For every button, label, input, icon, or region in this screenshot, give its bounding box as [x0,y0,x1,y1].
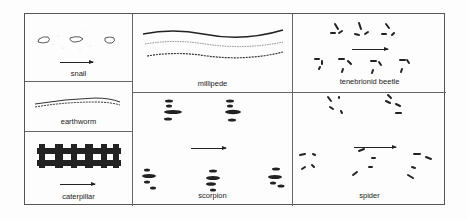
panel-label: snail [25,69,132,78]
panel-snail: snail [25,14,133,82]
scorpion-tracks-icon [133,93,293,206]
arrow-right-icon [191,148,226,149]
panel-label: scorpion [133,191,292,200]
animal-tracks-figure: snail earthworm caterpillar millipe [24,13,445,205]
panel-earthworm: earthworm [25,82,133,132]
panel-label: earthworm [25,117,132,126]
panel-label: millipede [133,79,292,88]
panel-caterpillar: caterpillar [25,132,133,206]
arrow-right-icon [60,184,95,185]
arrow-right-icon [354,147,396,148]
arrow-right-icon [60,62,93,63]
panel-label: caterpillar [25,192,132,201]
panel-tenebrionid-beetle: tenebrionid beetle [293,14,446,93]
panel-label: tenebrionid beetle [293,77,446,86]
panel-millipede: millipede [133,14,293,93]
spider-tracks-icon [293,93,446,206]
panel-scorpion: scorpion [133,93,293,206]
panel-label: spider [293,191,446,200]
arrow-right-icon [352,49,388,50]
panel-spider: spider [293,93,446,206]
